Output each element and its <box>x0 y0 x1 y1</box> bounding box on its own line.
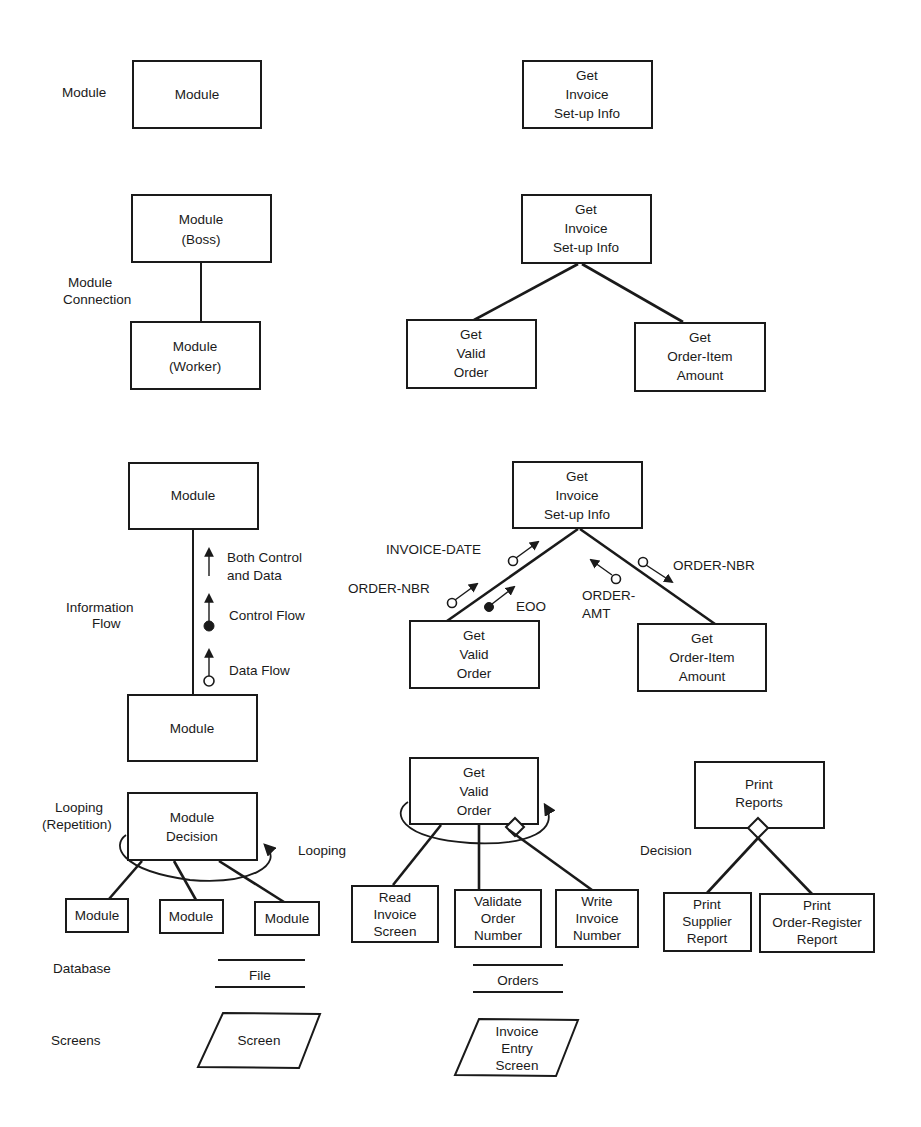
svg-text:Both Control: Both Control <box>227 550 302 565</box>
svg-text:Get: Get <box>463 765 485 780</box>
row-decision: Decision Print Reports Print Supplier Re… <box>640 762 874 952</box>
svg-text:Module: Module <box>179 212 223 227</box>
label-database: Database <box>53 961 111 976</box>
label-screens: Screens <box>51 1033 101 1048</box>
information-flow-example: Get Invoice Set-up Info Get Valid Order … <box>348 462 766 691</box>
module-symbol: Module <box>133 61 261 128</box>
invoice-date-data-couple-icon <box>509 542 539 566</box>
svg-text:Print: Print <box>803 898 831 913</box>
label-looping-2: (Repetition) <box>42 817 112 832</box>
svg-text:(Boss): (Boss) <box>181 232 220 247</box>
svg-text:ORDER-: ORDER- <box>582 588 635 603</box>
decision-example: Print Reports Print Supplier Report Prin… <box>664 762 874 952</box>
svg-text:Module: Module <box>171 488 215 503</box>
svg-text:Order-Item: Order-Item <box>667 349 732 364</box>
svg-text:Module: Module <box>170 721 214 736</box>
svg-text:Module: Module <box>169 909 213 924</box>
svg-text:Print: Print <box>693 897 721 912</box>
svg-text:Get: Get <box>575 202 597 217</box>
label-module: Module <box>62 85 106 100</box>
svg-text:AMT: AMT <box>582 606 611 621</box>
svg-text:Invoice: Invoice <box>576 911 619 926</box>
svg-text:and Data: and Data <box>227 568 282 583</box>
worker-module: Module (Worker) <box>131 322 260 389</box>
row-module: Module Module Get Invoice Set-up Info <box>62 61 652 128</box>
svg-text:Amount: Amount <box>679 669 726 684</box>
flow-bottom-module: Module <box>128 695 257 761</box>
svg-text:Control Flow: Control Flow <box>229 608 305 623</box>
order-amt-data-couple-icon <box>591 560 621 584</box>
svg-text:Screen: Screen <box>496 1058 539 1073</box>
looping-symbol: Module Decision Module Module Module <box>66 793 319 935</box>
label-looping-1: Looping <box>55 800 103 815</box>
svg-text:Amount: Amount <box>677 368 724 383</box>
structure-chart-notation-diagram: Module Module Get Invoice Set-up Info Mo… <box>0 0 921 1127</box>
control-flow-couple-icon <box>204 595 214 631</box>
svg-text:Data Flow: Data Flow <box>229 663 290 678</box>
svg-text:Get: Get <box>576 68 598 83</box>
label-information-flow-2: Flow <box>92 616 121 631</box>
label-looping-side: Looping <box>298 843 346 858</box>
data-flow-couple-icon <box>204 650 214 686</box>
svg-text:Valid: Valid <box>456 346 485 361</box>
svg-text:Valid: Valid <box>459 647 488 662</box>
svg-text:Order-Item: Order-Item <box>669 650 734 665</box>
svg-text:Print: Print <box>745 777 773 792</box>
svg-text:Order-Register: Order-Register <box>772 915 862 930</box>
svg-text:Get: Get <box>460 327 482 342</box>
svg-text:Read: Read <box>379 890 411 905</box>
invoice-entry-screen-example: Invoice Entry Screen <box>455 1019 578 1076</box>
svg-text:Invoice: Invoice <box>496 1024 539 1039</box>
orders-file-example: Orders <box>473 965 563 992</box>
module-example: Get Invoice Set-up Info <box>523 61 652 128</box>
svg-text:Invoice: Invoice <box>565 221 608 236</box>
svg-text:Invoice: Invoice <box>566 87 609 102</box>
svg-text:Module: Module <box>170 810 214 825</box>
label-module-connection-1: Module <box>68 275 112 290</box>
svg-text:Supplier: Supplier <box>682 914 732 929</box>
svg-text:File: File <box>249 968 271 983</box>
label-information-flow-1: Information <box>66 600 134 615</box>
order-nbr-right-data-couple-icon <box>639 558 673 583</box>
row-information-flow: Information Flow Module Module Both Cont… <box>66 462 766 761</box>
svg-text:Set-up Info: Set-up Info <box>553 240 619 255</box>
module-symbol-text: Module <box>175 87 219 102</box>
svg-text:Orders: Orders <box>497 973 539 988</box>
svg-text:Set-up Info: Set-up Info <box>554 106 620 121</box>
svg-text:Write: Write <box>581 894 612 909</box>
svg-text:Number: Number <box>474 928 523 943</box>
file-symbol: File <box>215 960 305 987</box>
svg-text:ORDER-NBR: ORDER-NBR <box>673 558 755 573</box>
svg-text:Module: Module <box>265 911 309 926</box>
svg-text:Report: Report <box>687 931 728 946</box>
svg-text:Get: Get <box>689 330 711 345</box>
svg-text:EOO: EOO <box>516 599 546 614</box>
svg-text:Invoice: Invoice <box>556 488 599 503</box>
svg-text:Decision: Decision <box>166 829 218 844</box>
svg-text:Module: Module <box>75 908 119 923</box>
svg-text:Number: Number <box>573 928 622 943</box>
row-module-connection: Module Connection Module (Boss) Module (… <box>63 195 765 391</box>
label-decision: Decision <box>640 843 692 858</box>
svg-text:Order: Order <box>481 911 516 926</box>
svg-text:Set-up Info: Set-up Info <box>544 507 610 522</box>
flow-top-module: Module <box>129 463 258 529</box>
svg-text:Order: Order <box>457 666 492 681</box>
row-screens: Screens Screen Invoice Entry Screen <box>51 1013 578 1076</box>
svg-text:Report: Report <box>797 932 838 947</box>
svg-text:ORDER-NBR: ORDER-NBR <box>348 581 430 596</box>
svg-text:(Worker): (Worker) <box>169 359 221 374</box>
svg-text:Entry: Entry <box>501 1041 533 1056</box>
svg-text:Validate: Validate <box>474 894 522 909</box>
svg-text:INVOICE-DATE: INVOICE-DATE <box>386 542 481 557</box>
label-module-connection-2: Connection <box>63 292 131 307</box>
connection-example: Get Invoice Set-up Info Get Valid Order … <box>407 195 765 391</box>
boss-module: Module (Boss) <box>132 195 271 262</box>
svg-text:Get: Get <box>463 628 485 643</box>
screen-symbol: Screen <box>198 1013 320 1068</box>
svg-text:Screen: Screen <box>238 1033 281 1048</box>
svg-text:Reports: Reports <box>735 795 783 810</box>
row-database: Database File Orders <box>53 960 563 992</box>
row-looping: Looping (Repetition) Looping Module Deci… <box>42 758 638 947</box>
svg-text:Screen: Screen <box>374 924 417 939</box>
